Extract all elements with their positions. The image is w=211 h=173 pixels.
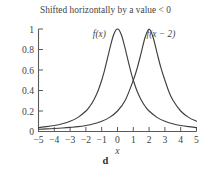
x-tick-label-7: 2 [147,134,152,145]
x-tick-label-1: −4 [49,134,59,145]
chart-plot-area: 0 0.2 0.4 0.6 0.8 1 −5 −4 −3 −2 −1 0 1 2… [0,0,211,173]
y-tick-label-5: 1 [29,24,34,35]
figure-panel: Shifted horizontally by a value < 0 [0,0,211,173]
x-tick-label-6: 1 [131,134,136,145]
x-tick-label-9: 4 [178,134,183,145]
x-tick-label-5: 0 [115,134,120,145]
curve-label-f-of-x-minus-2: f(x − 2) [147,29,176,40]
x-tick-label-0: −5 [33,134,43,145]
y-tick-label-1: 0.2 [22,106,34,117]
y-tick-label-3: 0.6 [22,65,34,76]
curve-label-f-of-x: f(x) [93,29,106,40]
curve-f-of-x [39,29,197,128]
x-tick-label-4: −1 [97,134,107,145]
y-tick-label-4: 0.8 [22,44,34,55]
curve-f-of-x-minus-2 [39,29,197,129]
x-tick-label-10: 5 [194,134,199,145]
y-axis-ticks [39,29,44,132]
x-tick-label-3: −2 [81,134,91,145]
y-tick-label-2: 0.4 [22,85,34,96]
x-tick-label-8: 3 [163,134,168,145]
figure-caption-letter: d [0,155,211,166]
x-tick-label-2: −3 [65,134,75,145]
